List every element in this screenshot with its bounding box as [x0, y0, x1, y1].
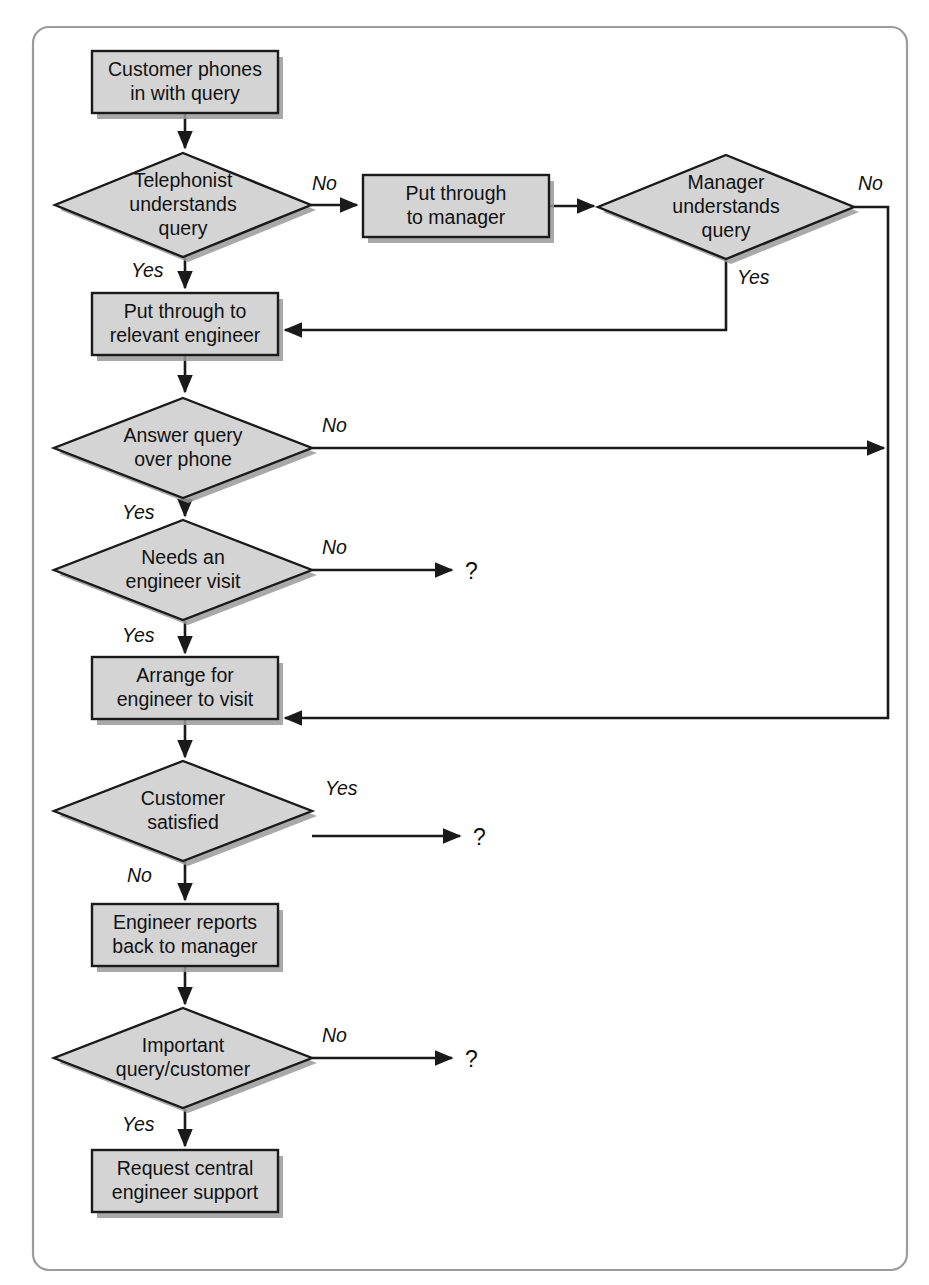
- edge-label-answer-yes: Yes: [122, 501, 155, 523]
- node-label: in with query: [130, 82, 240, 104]
- node-label: Customer phones: [108, 58, 262, 80]
- node-arrange-engineer-visit: Arrange for engineer to visit: [92, 657, 283, 725]
- node-answer-query-over-phone: Answer query over phone: [54, 398, 317, 503]
- terminator-question-satisfied: ?: [473, 824, 486, 850]
- flowchart-canvas: Customer phones in with query Telephonis…: [0, 0, 929, 1285]
- edge-label-answer-no: No: [322, 414, 347, 436]
- terminators: ? ? ?: [465, 558, 486, 1072]
- edge-label-important-yes: Yes: [122, 1113, 155, 1135]
- node-label: Arrange for: [136, 664, 234, 686]
- node-label: to manager: [407, 206, 506, 228]
- node-put-through-relevant-engineer: Put through to relevant engineer: [92, 293, 283, 361]
- node-label: understands: [672, 195, 780, 217]
- node-label: engineer support: [112, 1181, 259, 1203]
- terminator-question-visit: ?: [465, 558, 478, 584]
- node-label: query: [702, 219, 751, 241]
- node-label: Engineer reports: [113, 911, 257, 933]
- edge-label-important-no: No: [322, 1024, 347, 1046]
- edge-label-satisfied-no: No: [127, 864, 152, 886]
- node-label: relevant engineer: [110, 324, 261, 346]
- node-important-query-customer: Important query/customer: [54, 1008, 317, 1113]
- edge-n4-n8: [285, 207, 888, 718]
- node-customer-satisfied: Customer satisfied: [54, 761, 317, 866]
- node-label: Put through: [406, 182, 507, 204]
- node-label: Customer: [141, 787, 226, 809]
- edge-n4-n5: [285, 260, 726, 330]
- edge-label-visit-yes: Yes: [122, 624, 155, 646]
- node-needs-engineer-visit: Needs an engineer visit: [54, 520, 317, 625]
- edge-label-visit-no: No: [322, 536, 347, 558]
- node-label: Manager: [688, 171, 765, 193]
- node-label: query/customer: [116, 1058, 251, 1080]
- node-request-central-support: Request central engineer support: [92, 1150, 283, 1218]
- node-label: Important: [142, 1034, 225, 1056]
- node-manager-understands-query: Manager understands query: [598, 155, 859, 264]
- node-label: over phone: [134, 448, 232, 470]
- node-customer-phones-in: Customer phones in with query: [92, 51, 283, 119]
- node-label: engineer to visit: [117, 688, 254, 710]
- node-put-through-to-manager: Put through to manager: [363, 175, 554, 243]
- node-label: Request central: [117, 1157, 254, 1179]
- edge-label-manager-no: No: [858, 172, 883, 194]
- edge-label-telephonist-yes: Yes: [131, 259, 164, 281]
- flowchart-svg: Customer phones in with query Telephonis…: [0, 0, 929, 1285]
- node-telephonist-understands-query: Telephonist understands query: [55, 153, 316, 262]
- node-label: understands: [129, 193, 237, 215]
- connectors: [185, 113, 888, 1146]
- node-label: engineer visit: [126, 570, 241, 592]
- node-label: Telephonist: [134, 169, 233, 191]
- node-label: Answer query: [123, 424, 242, 446]
- node-engineer-reports-back: Engineer reports back to manager: [92, 904, 283, 972]
- node-label: Needs an: [141, 546, 224, 568]
- node-label: back to manager: [112, 935, 258, 957]
- node-label: Put through to: [124, 300, 247, 322]
- terminator-question-important: ?: [465, 1046, 478, 1072]
- edge-label-satisfied-yes: Yes: [325, 777, 358, 799]
- node-label: satisfied: [147, 811, 219, 833]
- edge-label-telephonist-no: No: [312, 172, 337, 194]
- edge-label-manager-yes: Yes: [737, 266, 770, 288]
- node-label: query: [159, 217, 208, 239]
